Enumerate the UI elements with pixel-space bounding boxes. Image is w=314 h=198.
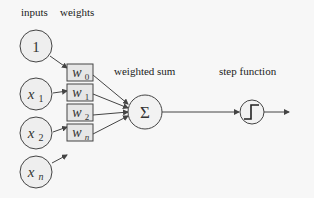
sum-node: Σ — [128, 95, 162, 129]
weight-box-w1: w 1 — [67, 84, 93, 102]
input-edges — [50, 56, 67, 163]
input-node-x2: x 2 — [20, 117, 52, 149]
input-node-x1: x 1 — [20, 78, 52, 110]
svg-text:w: w — [72, 85, 82, 100]
svg-text:2: 2 — [39, 132, 44, 143]
weights-label: weights — [60, 6, 94, 18]
perceptron-diagram: inputs weights weighted sum step functio… — [0, 0, 314, 198]
sigma-icon: Σ — [140, 103, 150, 122]
weight-box-wn: w n — [67, 124, 93, 142]
weight-box-w2: w 2 — [67, 104, 93, 122]
svg-text:2: 2 — [85, 112, 90, 122]
svg-text:x: x — [27, 86, 35, 102]
svg-text:x: x — [27, 125, 35, 141]
svg-text:1: 1 — [32, 39, 40, 55]
weight-edges — [93, 75, 128, 134]
step-function-node — [240, 100, 264, 124]
svg-text:0: 0 — [85, 72, 90, 82]
input-node-1: 1 — [20, 30, 52, 62]
weight-box-w0: w 0 — [67, 64, 93, 82]
svg-text:1: 1 — [39, 93, 44, 104]
svg-text:w: w — [72, 125, 82, 140]
svg-text:n: n — [39, 171, 44, 182]
step-function-label: step function — [219, 65, 277, 77]
inputs-label: inputs — [21, 6, 48, 18]
svg-text:n: n — [85, 132, 90, 142]
weighted-sum-label: weighted sum — [114, 65, 176, 77]
svg-text:w: w — [72, 105, 82, 120]
svg-text:x: x — [27, 164, 35, 180]
svg-text:1: 1 — [85, 92, 90, 102]
input-node-xn: x n — [20, 156, 52, 188]
svg-text:w: w — [72, 65, 82, 80]
